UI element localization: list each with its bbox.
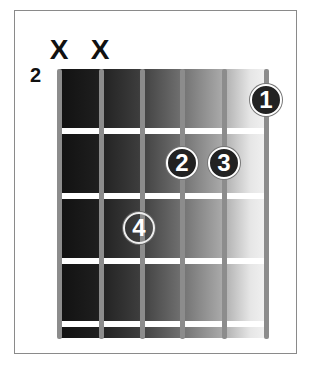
fret-line-2: [59, 193, 267, 199]
fret-line-1: [59, 128, 267, 134]
starting-fret-number: 2: [30, 64, 41, 87]
muted-string-6-x: X: [50, 36, 69, 64]
string-6: [57, 69, 62, 339]
finger-1-marker: 1: [250, 84, 282, 116]
muted-string-5-x: X: [91, 36, 110, 64]
finger-2-marker: 2: [166, 147, 198, 179]
string-4: [140, 69, 145, 339]
string-2: [222, 69, 227, 339]
fret-line-3: [59, 258, 267, 264]
fretboard: [59, 69, 267, 338]
finger-3-marker: 3: [208, 147, 240, 179]
fret-line-4: [59, 321, 267, 327]
string-3: [180, 69, 185, 339]
string-5: [99, 69, 104, 339]
finger-4-marker: 4: [123, 212, 155, 244]
